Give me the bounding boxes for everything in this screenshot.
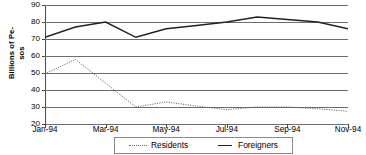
legend-label: Residents xyxy=(151,141,188,150)
x-tick-label: Jan-94 xyxy=(17,125,73,134)
legend-label: Foreigners xyxy=(238,141,278,150)
x-tick-label: Sep-94 xyxy=(259,125,315,134)
legend-item-residents[interactable]: Residents xyxy=(129,141,188,150)
series-line-residents xyxy=(45,59,348,111)
x-tick-label: Jul-94 xyxy=(199,125,255,134)
chart-legend: ResidentsForeigners xyxy=(114,137,293,154)
x-tick-label: May-94 xyxy=(138,125,194,134)
y-tick-label: 90 xyxy=(14,1,40,9)
x-tick-label: Mar-94 xyxy=(78,125,134,134)
legend-swatch-solid-line-icon xyxy=(216,143,234,149)
legend-swatch-dotted-line-icon xyxy=(129,143,147,149)
y-tick-label: 40 xyxy=(14,86,40,94)
series-line-foreigners xyxy=(45,17,348,37)
y-tick-label: 50 xyxy=(14,69,40,77)
legend-item-foreigners[interactable]: Foreigners xyxy=(216,141,278,150)
x-tick-label: Nov-94 xyxy=(320,125,366,134)
series-lines xyxy=(45,5,348,124)
y-tick-label: 80 xyxy=(14,18,40,26)
y-tick-label: 30 xyxy=(14,103,40,111)
y-tick-label: 70 xyxy=(14,35,40,43)
plot-area xyxy=(45,5,348,124)
y-tick-label: 60 xyxy=(14,52,40,60)
